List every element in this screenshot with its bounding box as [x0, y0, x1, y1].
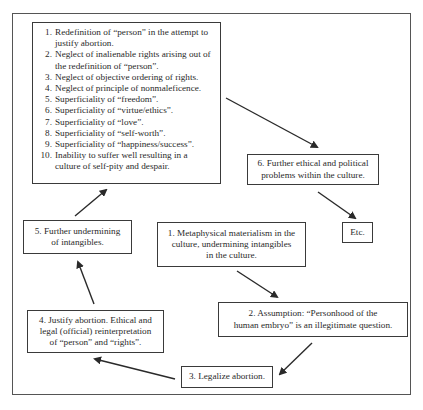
arrow-step2-to-step3	[280, 343, 312, 374]
arrow-step6-to-etc	[318, 192, 355, 218]
arrow-consequences-to-step6	[226, 98, 317, 147]
arrow-step4-to-step5	[78, 262, 94, 304]
arrow-step1-to-step2	[237, 271, 277, 297]
arrow-step3-to-step4	[95, 359, 175, 379]
arrow-step5-to-consequences	[75, 190, 106, 216]
arrows-layer	[0, 0, 423, 410]
